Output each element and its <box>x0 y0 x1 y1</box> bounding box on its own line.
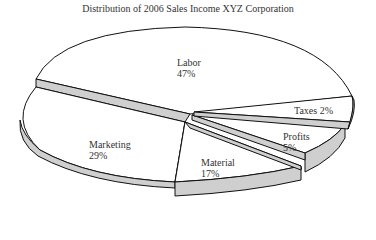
label-profits-value: 5% <box>283 142 310 153</box>
label-labor: Labor 47% <box>177 57 201 79</box>
label-marketing: Marketing 29% <box>89 139 131 161</box>
label-taxes: Taxes 2% <box>294 105 333 116</box>
label-material-name: Material <box>201 157 235 168</box>
label-profits: Profits 5% <box>283 131 310 153</box>
label-labor-value: 47% <box>177 68 201 79</box>
label-material: Material 17% <box>201 157 235 179</box>
label-labor-name: Labor <box>177 57 201 68</box>
label-marketing-name: Marketing <box>89 139 131 150</box>
label-material-value: 17% <box>201 168 235 179</box>
label-marketing-value: 29% <box>89 150 131 161</box>
label-taxes-name: Taxes <box>294 105 317 116</box>
label-taxes-value: 2% <box>320 105 333 116</box>
label-profits-name: Profits <box>283 131 310 142</box>
